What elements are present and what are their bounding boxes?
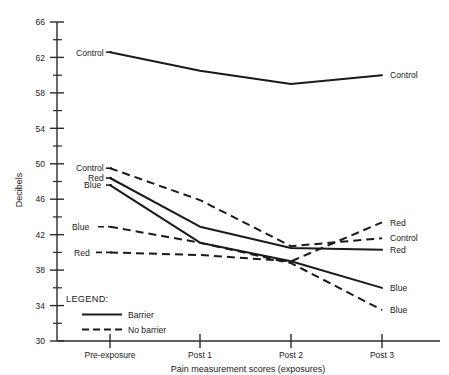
y-tick-label-38: 38: [36, 265, 46, 275]
chart-background: [0, 0, 449, 375]
left-label-control-no-barrier: Control: [76, 163, 104, 173]
legend-title: LEGEND:: [66, 294, 108, 304]
left-label-blue-barrier: Blue: [84, 180, 101, 190]
x-tick-label-post-3: Post 3: [370, 350, 394, 360]
x-axis-title: Pain measurement scores (exposures): [171, 364, 326, 374]
x-tick-label-post-2: Post 2: [279, 350, 303, 360]
right-label-control-barrier: Control: [390, 70, 418, 80]
y-tick-label-34: 34: [36, 301, 46, 311]
left-label-red-no-barrier: Red: [74, 248, 90, 258]
y-tick-label-54: 54: [36, 124, 46, 134]
legend-label-no-barrier: No barrier: [128, 325, 166, 335]
left-label-blue-no-barrier: Blue: [72, 222, 89, 232]
right-label-red-barrier: Red: [390, 245, 406, 255]
right-label-control-no-barrier: Control: [390, 233, 418, 243]
right-label-red-no-barrier: Red: [390, 218, 406, 228]
x-tick-label-pre-exposure: Pre-exposure: [84, 350, 135, 360]
right-label-blue-barrier: Blue: [390, 283, 407, 293]
y-tick-label-58: 58: [36, 88, 46, 98]
line-chart: 66 62 58 54 50 46 42 38 34 30 Decibels P…: [0, 0, 449, 375]
x-tick-label-post-1: Post 1: [188, 350, 212, 360]
y-tick-label-66: 66: [36, 17, 46, 27]
legend-label-barrier: Barrier: [128, 310, 154, 320]
y-axis-title: Decibels: [14, 172, 24, 207]
y-tick-label-62: 62: [36, 53, 46, 63]
y-tick-label-46: 46: [36, 194, 46, 204]
right-label-blue-no-barrier: Blue: [390, 305, 407, 315]
left-label-control-barrier: Control: [76, 48, 104, 58]
chart-container: 66 62 58 54 50 46 42 38 34 30 Decibels P…: [0, 0, 449, 375]
y-tick-label-30: 30: [36, 336, 46, 346]
y-tick-label-42: 42: [36, 230, 46, 240]
y-tick-label-50: 50: [36, 159, 46, 169]
